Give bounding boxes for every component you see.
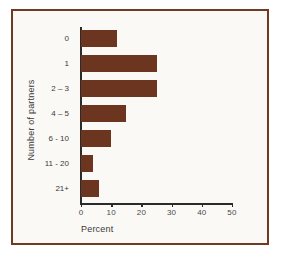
y-tick-label: 0 [65, 34, 69, 43]
y-tick-label: 1 [65, 59, 69, 68]
y-tick-label: 2 – 3 [51, 84, 69, 93]
bar-row [81, 105, 232, 122]
x-tick-label: 0 [79, 208, 84, 217]
bar-row [81, 155, 232, 172]
bar [81, 30, 117, 47]
chart-frame: 012 – 34 – 56 - 1011 - 2021+ 01020304050… [11, 9, 269, 245]
y-tick-label-holder: 2 – 3 [13, 80, 75, 97]
x-tick [232, 203, 233, 207]
bar-row [81, 30, 232, 47]
y-tick-label: 21+ [55, 184, 69, 193]
y-tick-label-holder: 0 [13, 30, 75, 47]
y-tick-label-holder: 4 – 5 [13, 105, 75, 122]
bar [81, 155, 93, 172]
y-axis-title: Number of partners [26, 55, 36, 185]
y-tick-label-holder: 11 - 20 [13, 155, 75, 172]
x-tick [81, 203, 82, 207]
bar-row [81, 130, 232, 147]
y-tick-label: 6 - 10 [49, 134, 69, 143]
x-tick-label: 40 [197, 208, 206, 217]
bar-row [81, 80, 232, 97]
bar [81, 80, 157, 97]
plot-area: 012 – 34 – 56 - 1011 - 2021+ 01020304050… [13, 11, 267, 243]
bar-row [81, 180, 232, 197]
x-tick [111, 203, 112, 207]
bar [81, 180, 99, 197]
y-tick-label-holder: 6 - 10 [13, 130, 75, 147]
x-axis-title: Percent [81, 224, 113, 234]
x-tick [141, 203, 142, 207]
bar [81, 130, 111, 147]
x-tick-label: 50 [227, 208, 236, 217]
bar [81, 105, 126, 122]
y-tick-label-holder: 21+ [13, 180, 75, 197]
x-tick-label: 10 [107, 208, 116, 217]
y-tick-label-holder: 1 [13, 55, 75, 72]
figure: 012 – 34 – 56 - 1011 - 2021+ 01020304050… [0, 0, 283, 257]
x-tick [172, 203, 173, 207]
x-tick [202, 203, 203, 207]
x-tick-label: 20 [137, 208, 146, 217]
bar [81, 55, 157, 72]
x-tick-label: 30 [167, 208, 176, 217]
y-tick-label: 11 - 20 [45, 159, 69, 168]
y-tick-label: 4 – 5 [51, 109, 69, 118]
x-axis-line [80, 203, 232, 205]
bar-row [81, 55, 232, 72]
